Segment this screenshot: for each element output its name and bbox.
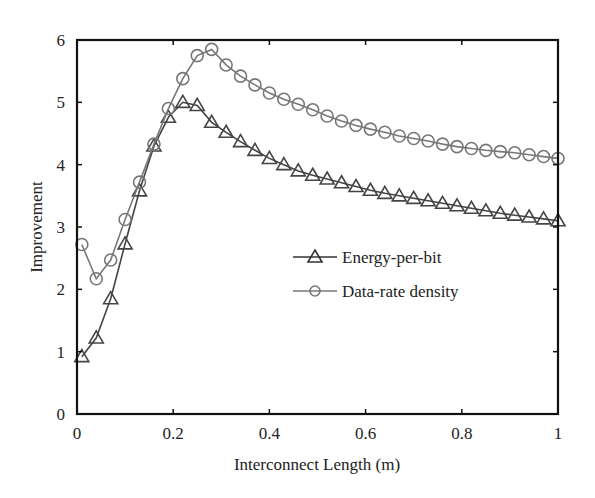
y-axis-title: Improvement [27, 181, 46, 273]
line-chart: 00.20.40.60.81 0123456 Interconnect Leng… [0, 0, 595, 498]
x-tick-labels: 00.20.40.60.81 [73, 424, 563, 443]
x-tick-label: 0.4 [259, 424, 281, 443]
y-tick-labels: 0123456 [57, 31, 66, 424]
y-tick-label: 2 [57, 280, 66, 299]
series-layer [75, 43, 565, 361]
y-tick-label: 3 [57, 218, 66, 237]
series-data-rate-density [76, 43, 564, 284]
x-tick-label: 0.8 [451, 424, 472, 443]
triangle-marker-icon [277, 158, 291, 170]
legend-item-data-rate-density: Data-rate density [293, 282, 459, 301]
x-tick-label: 0.2 [163, 424, 184, 443]
triangle-marker-icon [262, 151, 276, 163]
y-tick-label: 4 [57, 156, 66, 175]
legend-label: Data-rate density [342, 282, 459, 301]
triangle-marker-icon [291, 164, 305, 176]
triangle-marker-icon [308, 250, 322, 262]
x-tick-label: 0 [73, 424, 82, 443]
axis-ticks [77, 40, 558, 414]
y-tick-label: 0 [57, 405, 66, 424]
legend-item-energy-per-bit: Energy-per-bit [293, 248, 442, 267]
y-tick-label: 6 [57, 31, 66, 50]
y-tick-label: 5 [57, 93, 66, 112]
x-tick-label: 0.6 [355, 424, 376, 443]
triangle-marker-icon [176, 95, 190, 107]
plot-frame [77, 40, 558, 414]
y-tick-label: 1 [57, 343, 66, 362]
x-axis-title: Interconnect Length (m) [234, 455, 400, 474]
x-tick-label: 1 [554, 424, 563, 443]
legend-label: Energy-per-bit [342, 248, 442, 267]
legend: Energy-per-bit Data-rate density [293, 248, 459, 301]
series-energy-per-bit [75, 95, 565, 361]
